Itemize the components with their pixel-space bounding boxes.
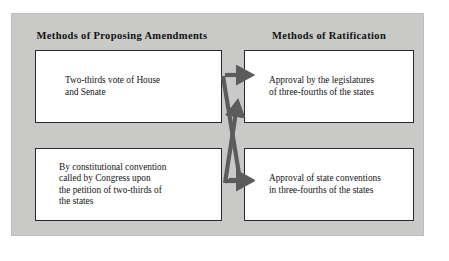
box-ratify-by-legislatures-text: Approval by the legislatures of three-fo… bbox=[245, 75, 374, 98]
box-propose-by-congress: Two-thirds vote of House and Senate bbox=[35, 50, 222, 123]
column-heading-proposing-amendments: Methods of Proposing Amendments bbox=[22, 30, 222, 41]
box-propose-by-convention: By constitutional convention called by C… bbox=[35, 148, 222, 221]
box-propose-by-congress-text: Two-thirds vote of House and Senate bbox=[36, 75, 160, 98]
box-propose-by-convention-text: By constitutional convention called by C… bbox=[36, 162, 166, 208]
amendment-process-figure: Methods of Proposing Amendments Methods … bbox=[0, 0, 449, 261]
box-ratify-by-state-conventions-text: Approval of state conventions in three-f… bbox=[245, 173, 381, 196]
column-heading-ratification: Methods of Ratification bbox=[244, 30, 414, 41]
box-ratify-by-state-conventions: Approval of state conventions in three-f… bbox=[244, 148, 414, 221]
box-ratify-by-legislatures: Approval by the legislatures of three-fo… bbox=[244, 50, 414, 123]
